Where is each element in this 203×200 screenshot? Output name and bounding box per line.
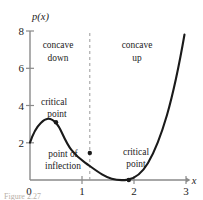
annotation-concave-down-line1: concave [43,40,74,50]
marker-critical-point-min [127,178,131,182]
x-tick-label-2: 2 [131,185,137,197]
annotation-concave-up-line1: concave [122,40,153,50]
annotation-concave-up-line2: up [132,53,142,63]
annotation-critical-point-left-line2: point [47,109,67,119]
y-tick-label-8: 8 [19,25,25,37]
x-axis-arrow [186,178,191,183]
x-axis-label: x [191,175,197,186]
annotation-critical-point-right-line2: point [126,159,146,169]
annotation-concave-down-line2: down [48,53,69,63]
y-tick-label-6: 6 [19,62,25,74]
y-tick-label-4: 4 [19,100,25,112]
annotation-point-of-inflection-line2: inflection [45,161,81,171]
figure-container: 8 6 4 2 0 1 2 3 p(x) x concave down conc… [0,0,203,200]
figure-caption: Figure 2.27 [4,192,41,200]
y-tick-label-2: 2 [19,137,25,149]
annotation-point-of-inflection-line1: point of [48,149,78,159]
annotation-critical-point-right-line1: critical [123,147,149,157]
x-tick-label-1: 1 [79,185,85,197]
plot-svg: 8 6 4 2 0 1 2 3 p(x) x concave down conc… [0,0,203,200]
annotation-critical-point-left-line1: critical [41,97,67,107]
x-tick-label-3: 3 [183,185,189,197]
y-axis-label: p(x) [31,11,49,23]
marker-point-of-inflection [88,151,92,155]
marker-critical-point-max [54,120,58,124]
